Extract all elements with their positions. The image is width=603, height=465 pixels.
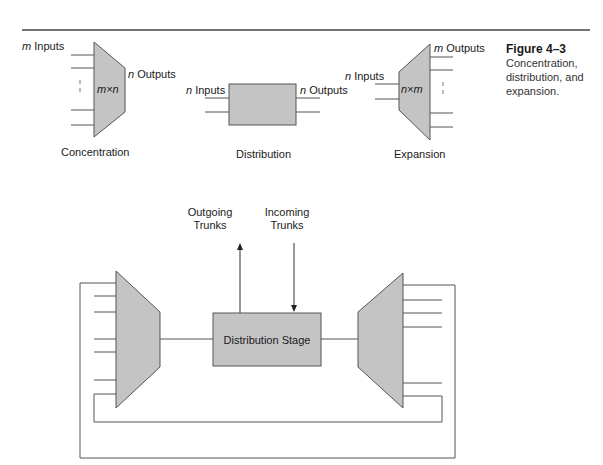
expansion-diagram: n Inputs n×m m Outputs Expansion: [345, 42, 485, 160]
figure-number: Figure 4–3: [506, 42, 566, 56]
distribution-box: [229, 84, 296, 125]
distribution-stage-label: Distribution Stage: [224, 334, 311, 346]
switch-network-diagram: OutgoingTrunks IncomingTrunks Distributi…: [80, 206, 455, 458]
distribution-diagram: n Inputs n Outputs Distribution: [186, 84, 348, 160]
distribution-caption: Distribution: [236, 148, 291, 160]
concentrator-size-label: m×n: [97, 83, 119, 95]
concentration-caption: Concentration: [61, 146, 130, 158]
concentration-outputs-label: n Outputs: [128, 68, 176, 80]
right-expander: [358, 273, 403, 408]
expansion-outputs-label: m Outputs: [434, 42, 485, 54]
figure-canvas: m Inputs m×n n Outputs Concentration n I…: [0, 0, 603, 465]
distribution-outputs-label: n Outputs: [300, 84, 348, 96]
svg-text:Concentration,: Concentration,: [506, 57, 578, 69]
expander-size-label: n×m: [401, 83, 423, 95]
outgoing-trunks-label: OutgoingTrunks: [188, 206, 233, 231]
incoming-trunks-label: IncomingTrunks: [265, 206, 310, 231]
figure-caption: Figure 4–3 Concentration, distribution, …: [506, 42, 584, 97]
left-concentrator: [116, 271, 160, 408]
inner-loop-line: [94, 394, 442, 422]
expansion-caption: Expansion: [394, 148, 445, 160]
expansion-inputs-label: n Inputs: [345, 70, 385, 82]
distribution-inputs-label: n Inputs: [186, 84, 226, 96]
concentration-inputs-label: m Inputs: [22, 40, 65, 52]
svg-text:distribution, and: distribution, and: [506, 71, 584, 83]
svg-text:expansion.: expansion.: [506, 85, 559, 97]
concentration-diagram: m Inputs m×n n Outputs Concentration: [22, 40, 176, 158]
